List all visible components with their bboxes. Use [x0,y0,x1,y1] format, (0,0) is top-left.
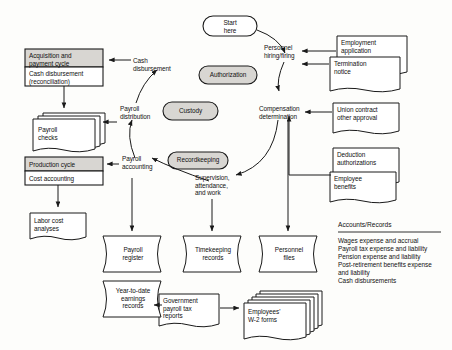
union-contract-label: Union contract other approval [337,106,399,121]
timekeeping-records-label: Timekeeping records [186,246,240,261]
employment-application-label: Employment application [341,39,405,54]
labor-cost-analyses-label: Labor cost analyses [34,217,86,232]
government-payroll-tax-reports-label: Government payroll tax reports [163,297,219,320]
employees-w2-forms-label: Employees' W-2 forms [248,308,306,323]
employee-benefits-label: Employee benefits [334,175,396,190]
terminator-shapes [163,16,257,169]
arrow-payroll-accounting-to-distribution [130,120,135,158]
accounts-records-list: Wages expense and accrual Payroll tax ex… [338,237,450,284]
acquisition-cycle-body-label: Cash disbursement (reconciliation) [29,70,103,85]
authorization-label: Authorization [199,71,257,79]
flowchart-canvas: Start here Authorization Custody Recordk… [0,0,452,350]
personnel-hiring-firing-label: Personnel hiring/firing [264,44,326,59]
production-cycle-header-label: Production cycle [29,161,103,169]
acquisition-cycle-header-label: Acquisition and payment cycle [29,52,103,67]
payroll-distribution-label: Payroll distribution [120,105,178,120]
supervision-attendance-work-label: Supervision, attendance, and work [195,174,255,197]
cash-disbursement-label: Cash disbursement [133,57,203,72]
arrow-personnel-to-compensation [278,62,284,91]
arrow-deduction-authorizations-to-compensation [289,116,331,175]
payroll-checks-label: Payroll checks [38,126,94,141]
termination-notice-label: Termination notice [334,60,398,75]
deduction-authorizations-label: Deduction authorizations [337,151,399,166]
year-to-date-earnings-label: Year-to-date earnings records [104,287,162,310]
start-here-label: Start here [203,19,257,34]
compensation-determination-label: Compensation determination [259,105,329,120]
personnel-files-label: Personnel files [262,246,316,261]
arrow-distribution-to-cash-disbursement [136,70,157,103]
payroll-accounting-label: Payroll accounting [122,155,180,170]
accounts-records-title: Accounts/Records [338,221,392,229]
payroll-register-label: Payroll register [106,246,160,261]
arrow-compensation-to-supervision [236,120,278,175]
production-cycle-body-label: Cost accounting [29,175,103,183]
